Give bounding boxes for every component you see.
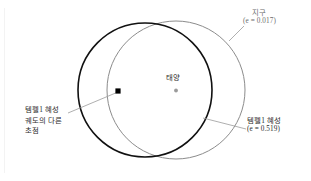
comet-orbit-circle <box>78 23 212 157</box>
sun-label: 태양 <box>166 73 180 82</box>
orbit-canvas <box>0 0 311 181</box>
earth-label-leader-line <box>229 26 244 41</box>
other-focus-label: 템펠1 혜성 궤도의 다른 초점 <box>25 105 62 137</box>
earth-orbit-label: 지구 (e = 0.017) <box>243 8 276 27</box>
other-focus-label-line3: 초점 <box>25 126 62 137</box>
earth-label-eccentricity: (e = 0.017) <box>243 17 276 26</box>
other-focus-dot <box>115 88 120 93</box>
comet-label-name: 템펠1 혜성 <box>247 116 281 125</box>
sun-label-name: 태양 <box>166 73 180 82</box>
other-focus-label-line2: 궤도의 다른 <box>25 116 62 127</box>
orbit-diagram-figure: 지구 (e = 0.017) 템펠1 혜성 (e = 0.519) 태양 템펠1… <box>0 0 311 181</box>
comet-label-leader-line <box>203 118 246 129</box>
other-focus-label-line1: 템펠1 혜성 <box>25 105 62 116</box>
comet-orbit-label: 템펠1 혜성 (e = 0.519) <box>247 116 281 135</box>
focus-label-leader-line <box>68 92 118 113</box>
earth-label-name: 지구 <box>252 8 266 17</box>
sun-dot <box>174 89 178 93</box>
comet-label-eccentricity: (e = 0.519) <box>247 125 281 134</box>
